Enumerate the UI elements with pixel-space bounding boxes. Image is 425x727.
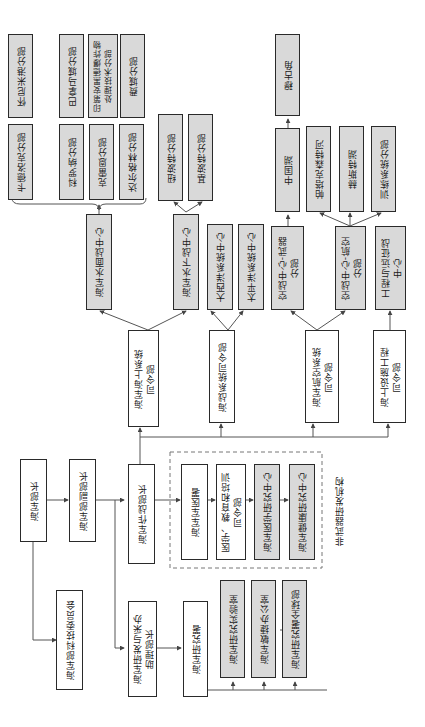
med-command-box: 医学、教育和培训 司令部 (216, 464, 246, 560)
training-box: 训练系统分部 (371, 126, 396, 212)
panama-city-box: 巴拿马城分部 (59, 34, 84, 118)
node-label: 赫斯特湖 (346, 149, 358, 189)
onr-box: 海军研究署 (183, 601, 208, 697)
org-chart: 海军部长 海军部副部长 海军部科技委员会 海军作战部长 海军研发与采办 助理部长… (0, 0, 425, 727)
dahlgren-box: 达尔格林分部 (119, 124, 144, 200)
group-label: 非武器研发机构 (332, 476, 345, 546)
node-label: 海军研究署 (190, 624, 202, 674)
cno-box: 海军作战部长 (128, 464, 155, 564)
node-label: 大西洋系统中心 (214, 232, 226, 302)
node-label: 怀尼米港分部 (15, 46, 27, 106)
node-label: 海军水下战中心 (180, 227, 192, 297)
keyport-box: 基波特分部 (188, 114, 213, 201)
node-label: 海战系统司令部 (216, 342, 228, 412)
node-label: 帕塔克森特河 (313, 139, 325, 199)
lakehurst-box: 赫斯特湖 (339, 126, 364, 212)
node-label: 海军作战部长 (136, 484, 148, 544)
node-label: 海军医学研究中心 (261, 472, 273, 552)
node-label: 基波特分部 (195, 133, 207, 183)
node-label: 海军健康研究中心 (296, 472, 308, 552)
nuwc-box: 海军水下战中心 (173, 214, 199, 310)
node-label: 海军部科技委员会 (64, 600, 76, 680)
node-label: 印第安黑德爆炸物处理技术分部 (92, 36, 114, 116)
tech-committee-box: 海军部科技委员会 (56, 590, 83, 690)
node-label: 克雷恩分部 (96, 137, 108, 187)
exwc-box: 工程与远征战 中心 (375, 226, 406, 310)
node-label: 海军水面战中心 (93, 227, 105, 297)
node-label: 海军军医署 (189, 487, 201, 537)
node-label: 巴拿马城分部 (66, 46, 78, 106)
patuxent-box: 帕塔克森特河 (306, 126, 331, 212)
node-label: 空战中心-航空 分部 (339, 236, 363, 300)
node-label: 海军部长 (28, 481, 40, 521)
indian-head-box: 印第安黑德爆炸物处理技术分部 (88, 34, 118, 118)
navsea-box: 海军海上系统 司令部 (128, 330, 159, 427)
awc-aircraft-box: 空战中心-航空 分部 (335, 226, 366, 310)
node-label: 达尔格林分部 (126, 132, 138, 192)
awc-weapons-box: 空战中心-武器 分部 (271, 226, 304, 310)
node-label: 海上设施工程 司令部 (378, 347, 402, 407)
node-label: 海军研发与采办 助理部长 (131, 614, 155, 684)
asn-rda-box: 海军研发与采办 助理部长 (128, 601, 157, 697)
node-label: 医学、教育和培训 司令部 (219, 472, 243, 552)
nrl-box: 海军研究实验室 (220, 580, 245, 678)
node-label: 海军研究署全球部 (289, 589, 301, 669)
node-label: 海军航空系统 司令部 (310, 347, 334, 407)
onr-global-box: 海军研究署全球部 (282, 580, 307, 678)
node-label: 工程与远征战 中心 (379, 238, 403, 298)
port-hueneme-box: 怀尼米港分部 (8, 34, 33, 118)
under-secretary-box: 海军部副部长 (69, 459, 96, 542)
node-label: 海军海上系统 司令部 (132, 349, 156, 409)
health-research-box: 海军健康研究中心 (289, 464, 315, 560)
navfac-box: 海上设施工程 司令部 (373, 330, 406, 423)
node-label: 空战中心-武器 分部 (276, 236, 300, 300)
node-label: 纽波特分部 (165, 133, 177, 183)
philadelphia-box: 费城分部 (120, 34, 145, 118)
node-label: 穆古角 (282, 60, 294, 90)
crane-box: 克雷恩分部 (89, 124, 114, 200)
node-label: 科罗纳分部 (66, 137, 78, 187)
navair-box: 海军航空系统 司令部 (305, 330, 339, 423)
pacific-box: 太平洋系统中心 (238, 224, 264, 310)
rapid-office-box: 海军敏捷办公室 (251, 580, 276, 678)
med-research-box: 海军医学研究中心 (254, 464, 280, 560)
node-label: 中国湖 (282, 155, 294, 185)
node-label: 训练系统分部 (378, 139, 390, 199)
china-lake-box: 中国湖 (275, 128, 300, 212)
secretary-of-navy-box: 海军部长 (20, 459, 47, 542)
node-label: 太平洋系统中心 (245, 232, 257, 302)
carderock-box: 卡德洛克分部 (8, 124, 33, 200)
atlantic-box: 大西洋系统中心 (207, 224, 233, 310)
node-label: 卡德洛克分部 (15, 132, 27, 192)
node-label: 海军敏捷办公室 (258, 594, 270, 664)
newport-box: 纽波特分部 (158, 114, 183, 201)
warfare-command-box: 海战系统司令部 (209, 330, 235, 423)
corona-box: 科罗纳分部 (59, 124, 84, 200)
node-label: 海军研究实验室 (227, 594, 239, 664)
node-label: 费城分部 (127, 56, 139, 96)
point-mugu-box: 穆古角 (275, 34, 300, 116)
nswc-box: 海军水面战中心 (86, 214, 112, 310)
bumed-box: 海军军医署 (181, 464, 208, 560)
node-label: 海军部副部长 (77, 471, 89, 531)
